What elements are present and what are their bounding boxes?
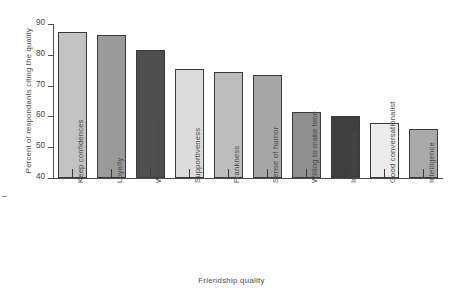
x-axis-category-label: Independence (349, 132, 358, 183)
bar-base-tick (345, 169, 346, 178)
y-axis-tick-label: 80 (36, 49, 45, 58)
y-axis-tick-label: 60 (36, 110, 45, 119)
y-axis-tick-label: 90 (36, 18, 45, 27)
y-axis-tick-label: 70 (36, 80, 45, 89)
x-axis-category-label: Sense of humor (271, 127, 280, 183)
bar-base-tick (306, 169, 307, 178)
x-axis-category-label: Willing to make time (310, 111, 319, 183)
bar-base-tick (384, 169, 385, 178)
y-axis-tick: 40 (48, 178, 53, 179)
bar-slot (97, 24, 125, 178)
bar-chart: Percent of respondants citing the qualit… (0, 0, 463, 295)
y-axis-tick-label: 50 (36, 141, 45, 150)
plot-area: 908070605040 (53, 24, 443, 178)
bars-layer (53, 24, 443, 178)
x-axis-category-label: Keep confidences (76, 119, 85, 183)
y-axis-title: Percent of respondants citing the qualit… (24, 11, 33, 191)
x-axis-category-label: Loyalty (115, 158, 124, 183)
x-axis-category-label: Good conversationalist (388, 101, 397, 183)
y-axis-tick-label: 40 (36, 172, 45, 181)
x-axis-category-label: Intelligence (427, 142, 436, 183)
x-axis-line (53, 178, 443, 179)
x-axis-category-label: Supportiveness (193, 128, 202, 183)
x-axis-category-label: Warmth, affection (154, 121, 163, 184)
x-axis-category-label: Frankness (232, 146, 241, 183)
bar-base-tick (228, 169, 229, 178)
bar-base-tick (72, 169, 73, 178)
bar[interactable] (97, 35, 125, 178)
bar-base-tick (267, 169, 268, 178)
bar-base-tick (150, 169, 151, 178)
page-edge-mark (2, 196, 7, 197)
bar-base-tick (189, 169, 190, 178)
bar-base-tick (423, 169, 424, 178)
x-axis-title: Friendship quality (0, 276, 463, 285)
bar-base-tick (111, 169, 112, 178)
